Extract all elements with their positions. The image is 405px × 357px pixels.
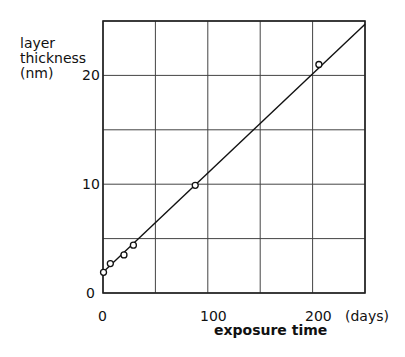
data-point-marker (130, 242, 136, 248)
data-point-marker (316, 62, 322, 68)
data-point-marker (107, 261, 113, 267)
fit-line (103, 24, 365, 272)
plot-area (0, 0, 405, 357)
data-point-marker (101, 269, 107, 275)
data-point-marker (121, 252, 127, 258)
data-point-marker (192, 182, 198, 188)
